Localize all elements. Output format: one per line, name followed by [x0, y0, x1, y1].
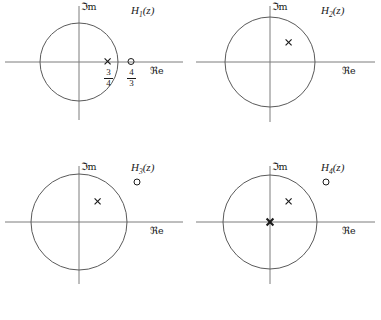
pole-marker [286, 198, 292, 204]
panel-h4-title-h: H [321, 161, 329, 173]
panel-h4-plot [190, 160, 381, 320]
pole-zero-figure: ℑm ℜe H1(z) 3 4 4 3 ℑm ℜe [0, 0, 381, 320]
imaginary-axis-label: ℑm [272, 2, 288, 12]
panel-h1-plot [0, 0, 190, 160]
real-axis-label: ℜe [342, 226, 356, 236]
pole-value-label: 3 4 [102, 68, 115, 88]
panel-h3-title-arg: (z) [143, 161, 155, 173]
pole-marker [286, 39, 292, 45]
zero-value-numerator: 4 [125, 68, 138, 77]
real-axis-label: ℜe [342, 66, 356, 76]
real-axis-label: ℜe [150, 226, 164, 236]
pole-value-denominator: 4 [102, 79, 115, 88]
panel-h4-title: H4(z) [321, 162, 344, 176]
pole-value-numerator: 3 [102, 68, 115, 77]
zero-marker [323, 179, 329, 185]
panel-h2-title-arg: (z) [333, 4, 345, 16]
panel-h2-title-h: H [321, 4, 329, 16]
panel-h4-title-arg: (z) [333, 161, 345, 173]
zero-value-label: 4 3 [125, 68, 138, 88]
imaginary-axis-label: ℑm [272, 162, 288, 172]
panel-h1-title-h: H [131, 4, 139, 16]
pole-marker [105, 58, 111, 64]
panel-h2-plot [190, 0, 381, 160]
pole-marker [95, 198, 101, 204]
panel-h3-plot [0, 160, 190, 320]
imaginary-axis-label: ℑm [81, 2, 97, 12]
panel-h1: ℑm ℜe H1(z) 3 4 4 3 [0, 0, 190, 160]
panel-h3-title: H3(z) [131, 162, 154, 176]
panel-h3-title-h: H [131, 161, 139, 173]
panel-h2: ℑm ℜe H2(z) [190, 0, 381, 160]
imaginary-axis-label: ℑm [81, 162, 97, 172]
panel-h1-title-arg: (z) [143, 4, 155, 16]
zero-marker [134, 179, 140, 185]
panel-h4: ℑm ℜe H4(z) [190, 160, 381, 320]
panel-h2-title: H2(z) [321, 5, 344, 19]
zero-value-denominator: 3 [125, 79, 138, 88]
panel-h1-title: H1(z) [131, 5, 154, 19]
real-axis-label: ℜe [150, 66, 164, 76]
panel-h3: ℑm ℜe H3(z) [0, 160, 190, 320]
